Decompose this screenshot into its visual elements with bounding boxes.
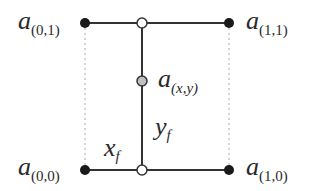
label-a11: a(1,1) xyxy=(246,6,288,39)
corner-point-top-right xyxy=(224,18,234,28)
label-a00: a(0,0) xyxy=(18,152,60,185)
label-a10: a(1,0) xyxy=(246,152,288,185)
corner-point-top-left xyxy=(80,18,90,28)
label-axy: a(x,y) xyxy=(158,64,198,97)
intermediate-point-top xyxy=(137,18,147,28)
corner-point-bottom-left xyxy=(80,165,90,175)
label-xf: xf xyxy=(103,133,122,164)
label-yf: yf xyxy=(152,112,173,143)
corner-point-bottom-right xyxy=(224,165,234,175)
interpolated-point xyxy=(137,76,147,86)
bilinear-interpolation-diagram: a(0,1) a(1,1) a(0,0) a(1,0) a(x,y) xf yf xyxy=(0,0,313,191)
label-a01: a(0,1) xyxy=(18,6,60,39)
intermediate-point-bottom xyxy=(137,165,147,175)
